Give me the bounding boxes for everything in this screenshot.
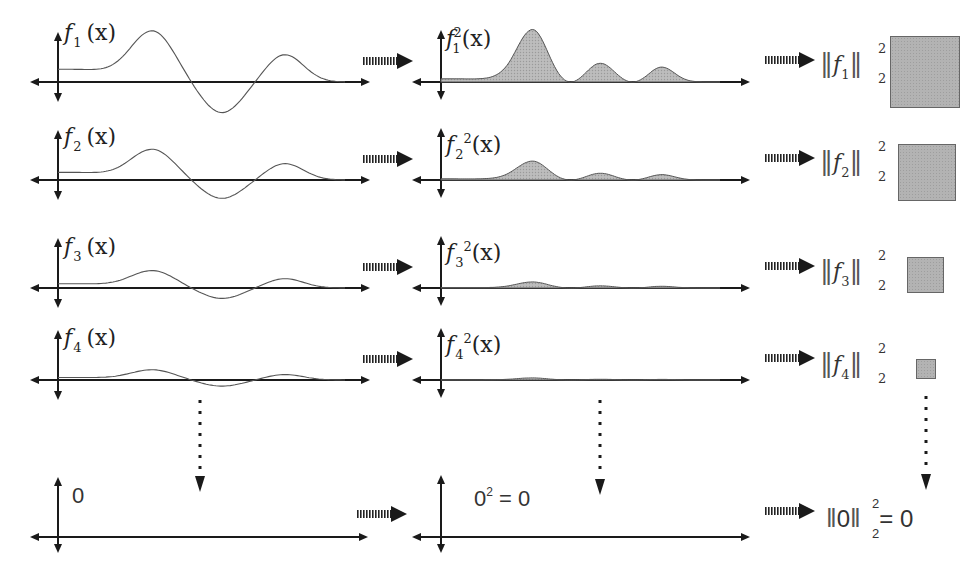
- curve-f4: [58, 370, 345, 386]
- arrowhead-left-icon: [30, 376, 39, 384]
- arrowhead-down-icon: [54, 191, 62, 200]
- label-f2: f2 (x): [64, 126, 116, 148]
- arrowhead-left-icon: [412, 284, 421, 292]
- label-f2-squared: f22(x): [446, 134, 501, 156]
- arrowhead-left-icon: [412, 78, 421, 86]
- arrowhead-right-icon: [361, 78, 370, 86]
- arrow-f3-to-squared-icon: [363, 259, 413, 275]
- arrow-f3-to-norm-icon: [765, 258, 815, 274]
- label-f3: f3 (x): [64, 236, 116, 258]
- arrowhead-down-icon: [437, 297, 445, 306]
- arrowhead-up-icon: [437, 30, 445, 39]
- convergence-diagram: f1 (x) f2 (x) f3 (x) f4 (x) f12(x) f22(x…: [0, 0, 974, 572]
- arrowhead-down-icon: [437, 189, 445, 198]
- arrowhead-left-icon: [30, 284, 39, 292]
- curve-f2: [58, 149, 345, 198]
- arrowhead-left-icon: [30, 533, 39, 541]
- label-f4: f4 (x): [64, 327, 116, 349]
- arrow-zero-to-norm-icon: [765, 503, 815, 519]
- area-f4-squared: [441, 378, 720, 380]
- norm-square-f4: [916, 359, 936, 379]
- arrow-f1-to-norm-icon: [765, 52, 815, 68]
- arrowhead-right-icon: [741, 533, 750, 541]
- label-zero-squared: 02 = 0: [474, 488, 530, 510]
- arrow-f4-to-norm-icon: [765, 350, 815, 366]
- arrowhead-up-icon: [54, 477, 62, 486]
- arrowhead-up-icon: [54, 130, 62, 139]
- limit-arrow-norms-icon: [921, 396, 931, 490]
- arrowhead-down-icon: [54, 391, 62, 400]
- arrowhead-right-icon: [361, 176, 370, 184]
- norm-zero: ‖0‖ 2 2 = 0: [826, 505, 913, 531]
- arrowhead-right-icon: [361, 284, 370, 292]
- arrow-f4-to-squared-icon: [363, 351, 413, 367]
- arrowhead-right-icon: [741, 284, 750, 292]
- norm-f2: ‖f2‖ 2 2: [820, 148, 862, 174]
- arrowhead-left-icon: [30, 176, 39, 184]
- norm-f4: ‖f4‖ 2 2: [820, 350, 862, 376]
- arrow-f2-to-squared-icon: [363, 151, 413, 167]
- arrowhead-down-icon: [437, 544, 445, 553]
- norm-square-f1: [890, 36, 960, 108]
- area-f2-squared: [441, 161, 720, 180]
- arrowhead-down-icon: [437, 389, 445, 398]
- arrowhead-left-icon: [412, 533, 421, 541]
- arrowhead-up-icon: [437, 236, 445, 245]
- arrowhead-up-icon: [437, 128, 445, 137]
- arrowhead-up-icon: [437, 475, 445, 484]
- norm-square-f3: [907, 257, 944, 293]
- limit-arrow-functions-icon: [195, 400, 205, 492]
- label-f1-squared: f12(x): [446, 28, 491, 50]
- label-f4-squared: f42(x): [446, 334, 501, 356]
- curve-f3: [58, 271, 345, 299]
- arrowhead-down-icon: [54, 544, 62, 553]
- norm-f3: ‖f3‖ 2 2: [820, 257, 862, 283]
- arrowhead-up-icon: [437, 328, 445, 337]
- limit-arrow-squares-icon: [595, 400, 605, 495]
- arrowhead-up-icon: [54, 32, 62, 41]
- arrowhead-up-icon: [54, 238, 62, 247]
- arrowhead-right-icon: [741, 376, 750, 384]
- arrowhead-up-icon: [54, 330, 62, 339]
- label-f1: f1 (x): [64, 22, 116, 44]
- label-f3-squared: f32(x): [446, 242, 501, 264]
- arrowhead-left-icon: [30, 78, 39, 86]
- axes-zero-squared: [412, 475, 750, 553]
- norm-square-f2: [898, 144, 956, 201]
- label-zero: 0: [72, 485, 84, 507]
- arrowhead-left-icon: [412, 176, 421, 184]
- arrowhead-down-icon: [54, 93, 62, 102]
- arrowhead-right-icon: [741, 176, 750, 184]
- arrow-zero-to-squared-icon: [357, 506, 407, 522]
- arrowhead-left-icon: [412, 376, 421, 384]
- arrowhead-down-icon: [54, 299, 62, 308]
- norm-f1: ‖f1‖ 2 2: [820, 50, 862, 76]
- arrowhead-right-icon: [359, 533, 368, 541]
- arrow-f1-to-squared-icon: [363, 53, 413, 69]
- arrowhead-right-icon: [741, 78, 750, 86]
- arrow-f2-to-norm-icon: [765, 150, 815, 166]
- axes-layer: [30, 30, 750, 553]
- arrowhead-right-icon: [361, 376, 370, 384]
- arrowhead-down-icon: [437, 91, 445, 100]
